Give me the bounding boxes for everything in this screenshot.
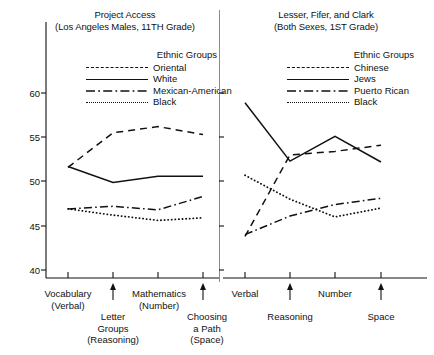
x-category-label-reasoning: Reasoning (249, 311, 331, 323)
x-category-label-letter-groups: Letter Groups (Reasoning) (79, 311, 147, 346)
series-line-jews (245, 103, 381, 162)
x-category-sub: (Reasoning) (79, 334, 147, 346)
series-line-white (68, 167, 203, 183)
x-category-label-mathematics: Mathematics (Number) (121, 288, 197, 311)
x-category-main: Mathematics (121, 288, 197, 300)
x-category-label-verbal: Verbal (213, 288, 277, 300)
chart-panel-lesser-fifer-clark: Lesser, Fifer, and Clark (Both Sexes, 1S… (219, 0, 434, 355)
x-category-label-number: Number (305, 288, 365, 300)
figure-root: Project Access (Los Angeles Males, 11TH … (0, 0, 434, 355)
series-line-puerto-rican (245, 198, 381, 234)
series-line-black (68, 209, 203, 221)
x-category-main-2: Groups (79, 323, 147, 335)
series-line-black (245, 175, 381, 217)
x-category-sub: (Number) (121, 300, 197, 312)
x-category-main: Vocabulary (25, 288, 111, 300)
x-category-label-vocabulary: Vocabulary (Verbal) (25, 288, 111, 311)
x-category-label-space: Space (349, 311, 413, 323)
chart-panel-project-access: Project Access (Los Angeles Males, 11TH … (0, 0, 219, 355)
series-line-chinese (245, 145, 381, 236)
x-category-main: Letter (79, 311, 147, 323)
series-line-mexican-american (68, 197, 203, 210)
series-line-oriental (68, 127, 203, 168)
x-category-sub: (Verbal) (25, 300, 111, 312)
plot-area-right (219, 0, 434, 355)
